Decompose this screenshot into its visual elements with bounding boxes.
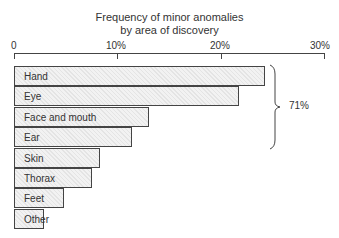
bar-other: Other	[14, 209, 44, 229]
bar-label: Skin	[24, 153, 43, 164]
chart-title-line-1: Frequency of minor anomalies	[0, 11, 339, 24]
bar-label: Thorax	[24, 173, 55, 184]
bar-label: Other	[24, 214, 49, 225]
bar-ear: Ear	[14, 127, 132, 147]
bar-feet: Feet	[14, 188, 64, 208]
chart-title-line-2: by area of discovery	[0, 24, 339, 37]
x-tick	[14, 53, 15, 59]
bar-label: Face and mouth	[24, 112, 96, 123]
x-tick-label-10: 10%	[106, 40, 126, 51]
x-tick-label-0: 0	[11, 40, 17, 51]
x-tick	[221, 53, 222, 59]
bar-label: Ear	[24, 132, 40, 143]
brace-icon	[268, 64, 288, 150]
x-tick	[117, 53, 118, 59]
brace-annotation-label: 71%	[289, 100, 309, 111]
x-tick	[324, 53, 325, 59]
bar-label: Feet	[24, 193, 44, 204]
bar-eye: Eye	[14, 86, 239, 106]
bar-skin: Skin	[14, 148, 100, 168]
bar-thorax: Thorax	[14, 168, 92, 188]
bar-hand: Hand	[14, 66, 265, 86]
bar-label: Hand	[24, 71, 48, 82]
bar-label: Eye	[24, 91, 41, 102]
bar-face-and-mouth: Face and mouth	[14, 107, 149, 127]
x-tick-label-30: 30%	[310, 40, 330, 51]
x-axis-line	[14, 53, 325, 54]
x-tick-label-20: 20%	[210, 40, 230, 51]
